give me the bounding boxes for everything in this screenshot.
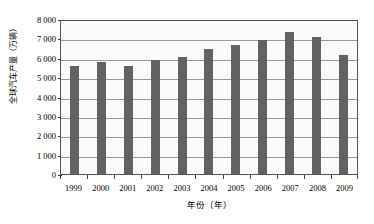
bar (231, 45, 240, 174)
x-tick-mark (357, 175, 358, 179)
x-tick-label: 2006 (250, 183, 277, 193)
plot-area (60, 20, 358, 175)
y-tick-label: 0 (14, 171, 56, 179)
bar (124, 66, 133, 175)
x-tick-mark (250, 175, 251, 179)
x-tick-mark (195, 175, 196, 179)
x-tick-label: 2008 (304, 183, 331, 193)
y-tick-label: 8 000 (14, 16, 56, 24)
x-axis-tick-labels: 1999200020012002200320042005200620072008… (60, 183, 358, 193)
x-tick-mark (60, 175, 61, 179)
bar-slot (115, 21, 142, 174)
x-tick-label: 2002 (141, 183, 168, 193)
y-axis-tick-labels: 01 0002 0003 0004 0005 0006 0007 0008 00… (14, 0, 56, 224)
bar-slot (169, 21, 196, 174)
x-tick-label: 2005 (223, 183, 250, 193)
x-tick-mark (114, 175, 115, 179)
y-tick-label: 7 000 (14, 35, 56, 43)
x-tick-mark (141, 175, 142, 179)
x-tick-label: 2001 (114, 183, 141, 193)
bar-slot (303, 21, 330, 174)
x-tick-mark (223, 175, 224, 179)
x-tick-label: 1999 (60, 183, 87, 193)
x-tick-mark (331, 175, 332, 179)
bar (204, 49, 213, 174)
bar-slot (88, 21, 115, 174)
y-tick-label: 1 000 (14, 152, 56, 160)
x-tick-mark (168, 175, 169, 179)
x-axis-title: 年份（年） (60, 198, 358, 210)
x-tick-mark (304, 175, 305, 179)
y-tick-label: 5 000 (14, 74, 56, 82)
bar-slot (142, 21, 169, 174)
x-tick-mark (277, 175, 278, 179)
bar-slot (249, 21, 276, 174)
x-tick-label: 2009 (331, 183, 358, 193)
x-tick-label: 2007 (277, 183, 304, 193)
x-tick-label: 2000 (87, 183, 114, 193)
x-axis-tick-marks (60, 175, 358, 183)
bar (178, 57, 187, 174)
bar-slot (61, 21, 88, 174)
bar-slot (330, 21, 357, 174)
bar (70, 66, 79, 175)
y-tick-label: 3 000 (14, 113, 56, 121)
bar-slot (196, 21, 223, 174)
x-tick-label: 2003 (168, 183, 195, 193)
bar-series (61, 21, 357, 174)
y-tick-label: 6 000 (14, 55, 56, 63)
bar (312, 37, 321, 174)
x-tick-label: 2004 (195, 183, 222, 193)
bar (258, 40, 267, 174)
bar-slot (222, 21, 249, 174)
x-tick-mark (87, 175, 88, 179)
bar (339, 55, 348, 174)
bar (285, 32, 294, 174)
bar (151, 60, 160, 174)
bar-chart: 全球汽车产量（万辆） 01 0002 0003 0004 0005 0006 0… (0, 0, 374, 224)
bar (97, 62, 106, 174)
bar-slot (276, 21, 303, 174)
y-tick-label: 2 000 (14, 132, 56, 140)
y-tick-label: 4 000 (14, 94, 56, 102)
